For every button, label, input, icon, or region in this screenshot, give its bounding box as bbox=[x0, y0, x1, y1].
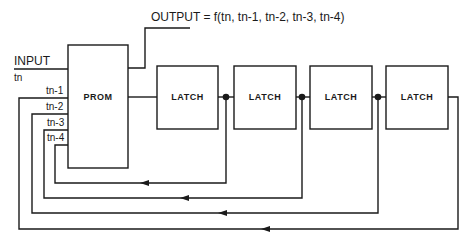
latch-label-1: LATCH bbox=[157, 93, 218, 102]
prom-label: PROM bbox=[68, 93, 128, 102]
junction-dot-1 bbox=[223, 94, 230, 101]
input-label: INPUT bbox=[14, 55, 50, 67]
feedback-tn-4 bbox=[55, 97, 226, 183]
input-sub-label: tn bbox=[14, 73, 22, 83]
feedback-tn-2 bbox=[32, 97, 378, 213]
latch-label-3: LATCH bbox=[310, 93, 372, 102]
junction-dot-3 bbox=[375, 94, 382, 101]
junction-dot-2 bbox=[299, 94, 306, 101]
arrow-left-icon bbox=[180, 195, 189, 201]
feedback-tn-1 bbox=[19, 97, 458, 229]
prom-input-tn-3: tn-3 bbox=[47, 118, 64, 128]
arrow-left-icon bbox=[140, 180, 149, 186]
block-diagram-wiring bbox=[0, 0, 474, 243]
latch-label-2: LATCH bbox=[234, 93, 296, 102]
arrow-left-icon bbox=[218, 210, 227, 216]
arrow-left-icon bbox=[261, 226, 270, 232]
output-line bbox=[128, 28, 190, 68]
latch-label-4: LATCH bbox=[386, 93, 448, 102]
prom-input-tn-1: tn-1 bbox=[46, 86, 63, 96]
output-label: OUTPUT = f(tn, tn-1, tn-2, tn-3, tn-4) bbox=[151, 11, 345, 23]
prom-input-tn-4: tn-4 bbox=[47, 133, 64, 143]
prom-input-tn-2: tn-2 bbox=[46, 102, 63, 112]
prom-box bbox=[68, 45, 128, 168]
